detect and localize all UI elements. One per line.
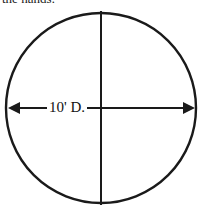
arrowhead-right-icon [183, 102, 195, 114]
diameter-label: 10' D. [47, 99, 87, 115]
circle-diagram [0, 0, 200, 205]
arrowhead-left-icon [8, 102, 20, 114]
